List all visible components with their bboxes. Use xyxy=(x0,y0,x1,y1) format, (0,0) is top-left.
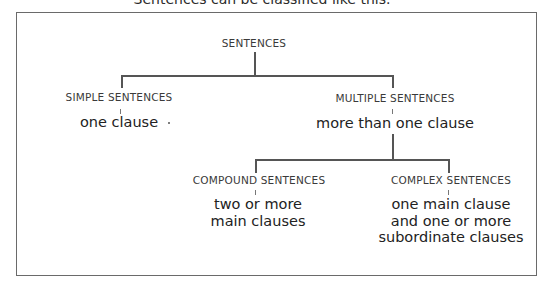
connector-complex-tick xyxy=(448,190,449,195)
node-complex-description-line-3: subordinate clauses xyxy=(378,229,523,246)
connector-compound-drop xyxy=(255,159,257,173)
node-simple-description: one clause xyxy=(80,114,158,131)
connector-compound-tick xyxy=(255,190,256,195)
node-simple-description-line: one clause xyxy=(80,114,158,131)
connector-simple-drop xyxy=(121,75,123,88)
node-multiple-description-line: more than one clause xyxy=(316,115,474,132)
stray-mark xyxy=(168,122,170,124)
node-compound-label: COMPOUND SENTENCES xyxy=(193,174,326,186)
node-complex-description: one main clause and one or more subordin… xyxy=(378,196,523,246)
node-complex-description-line-2: and one or more xyxy=(378,213,523,230)
connector-root-stem xyxy=(254,52,256,76)
connector-multiple-stem xyxy=(392,134,394,160)
connector-multiple-drop xyxy=(392,75,394,88)
node-root-label: SENTENCES xyxy=(222,37,287,49)
node-compound-description-line-2: main clauses xyxy=(211,213,306,230)
node-multiple-label: MULTIPLE SENTENCES xyxy=(335,92,454,104)
diagram-caption: Sentences can be classified like this. xyxy=(0,0,524,7)
node-compound-description: two or more main clauses xyxy=(211,196,306,229)
node-complex-description-line-1: one main clause xyxy=(378,196,523,213)
node-simple-label: SIMPLE SENTENCES xyxy=(66,91,173,103)
connector-multiple-bar xyxy=(255,159,450,161)
connector-complex-drop xyxy=(448,159,450,173)
connector-multiple-tick xyxy=(392,109,393,114)
node-compound-description-line-1: two or more xyxy=(211,196,306,213)
node-multiple-description: more than one clause xyxy=(316,115,474,132)
connector-root-bar xyxy=(121,75,394,77)
node-complex-label: COMPLEX SENTENCES xyxy=(391,174,511,186)
